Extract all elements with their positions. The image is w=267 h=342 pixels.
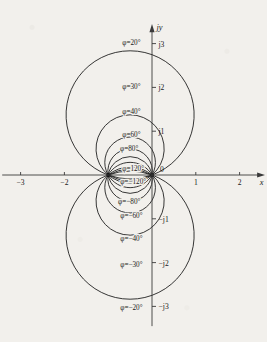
x-tick-label: −2 xyxy=(60,178,68,187)
phi-label: φ=−80° xyxy=(118,198,140,206)
phi-label: φ=−20° xyxy=(120,304,142,312)
phi-label: φ=20° xyxy=(122,39,140,47)
phi-label: φ=60° xyxy=(122,131,140,139)
y-tick-label: −j2 xyxy=(159,259,169,268)
y-axis-arrow xyxy=(149,24,154,32)
phi-label: φ=30° xyxy=(122,83,140,91)
phi-label: φ=80° xyxy=(120,145,138,153)
y-axis-label: jy xyxy=(156,23,163,32)
y-tick-label: −j1 xyxy=(159,215,169,224)
phi-label: φ=120° xyxy=(122,165,144,173)
phi-label: φ=−120° xyxy=(120,178,146,186)
phi-label: φ=40° xyxy=(122,108,140,116)
y-tick-label: j1 xyxy=(158,127,165,136)
x-tick-label: 1 xyxy=(194,178,198,187)
x-tick-label: 2 xyxy=(238,178,242,187)
x-tick-label: −3 xyxy=(17,178,25,187)
phi-label: φ=−30° xyxy=(120,261,142,269)
x-axis-label: x xyxy=(259,178,264,187)
label-group: −3−212j3j2j1−j1−j2−j30xjyφ=20°φ=20°φ=30°… xyxy=(17,23,264,311)
y-tick-label: j2 xyxy=(158,83,165,92)
phi-label: φ=−60° xyxy=(120,212,142,220)
phi-label: φ=−40° xyxy=(120,235,142,243)
y-tick-label: −j3 xyxy=(159,302,169,311)
y-tick-label: j3 xyxy=(158,40,165,49)
axes-group xyxy=(2,24,265,326)
origin-label: 0 xyxy=(160,165,164,174)
x-axis-arrow xyxy=(257,172,265,177)
complex-plane-arc-chart: −3−212j3j2j1−j1−j2−j30xjyφ=20°φ=20°φ=30°… xyxy=(0,0,267,342)
